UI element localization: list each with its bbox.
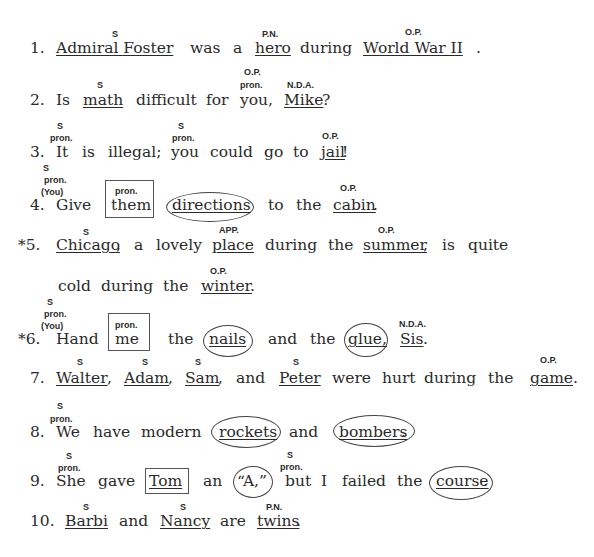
label-appositive: APP.: [219, 225, 239, 235]
word: nails: [209, 330, 246, 348]
punctuation: ,: [116, 236, 121, 254]
label-noun-direct-address: N.D.A.: [399, 319, 426, 329]
word: to: [293, 143, 309, 161]
word: were: [332, 369, 371, 387]
punctuation: ,: [107, 369, 112, 387]
word: Nancy: [160, 512, 210, 530]
word: Give: [56, 196, 91, 214]
word: go: [264, 143, 283, 161]
word: course: [436, 472, 489, 490]
grammar-worksheet: S P.N. O.P. 1. Admiral Foster was a hero…: [0, 0, 594, 557]
label-pronoun: pron.: [44, 175, 67, 185]
sentence-number: 9.: [30, 472, 45, 490]
label-predicate-nominative: P.N.: [262, 29, 278, 39]
label-pronoun: pron.: [172, 133, 195, 143]
word: She: [56, 472, 86, 490]
label-object-of-preposition: O.P.: [322, 131, 339, 141]
word: the: [310, 330, 335, 348]
word: are: [220, 512, 246, 530]
punctuation: .: [250, 277, 255, 295]
word: hurt: [382, 369, 416, 387]
word: Chicago: [56, 236, 120, 254]
sentence-number: 4.: [30, 196, 45, 214]
punctuation: !: [342, 143, 348, 161]
sentence-number: 3.: [30, 143, 45, 161]
punctuation: .: [296, 512, 301, 530]
word: “A,”: [237, 472, 267, 490]
word: glue,: [348, 330, 387, 348]
punctuation: .: [373, 196, 378, 214]
word: winter: [201, 277, 252, 295]
word: the: [488, 369, 513, 387]
word: summer: [363, 236, 427, 254]
word: Is: [56, 91, 70, 109]
label-pronoun: pron.: [280, 462, 303, 472]
word: during: [101, 277, 153, 295]
label-subject: S: [287, 450, 293, 460]
word: place: [212, 236, 254, 254]
word: Barbi: [65, 512, 108, 530]
word: Sis: [400, 330, 424, 348]
punctuation: .: [573, 369, 578, 387]
word: Tom: [149, 472, 182, 490]
word: We: [56, 423, 80, 441]
label-object-of-preposition: O.P.: [378, 225, 395, 235]
word: and: [268, 330, 297, 348]
label-subject: S: [195, 357, 201, 367]
label-object-of-preposition: O.P.: [405, 27, 422, 37]
word: an: [203, 472, 222, 490]
label-subject: S: [77, 357, 83, 367]
label-subject: S: [180, 502, 186, 512]
word: failed: [342, 472, 386, 490]
word: me: [115, 330, 139, 348]
word: gave: [98, 472, 135, 490]
punctuation: .: [476, 39, 481, 57]
word: cabin: [333, 196, 376, 214]
word: a: [233, 39, 242, 57]
word: the: [163, 277, 188, 295]
sentence-number: 10.: [30, 512, 55, 530]
label-predicate-nominative: P.N.: [266, 502, 282, 512]
label-object-of-preposition: O.P.: [340, 183, 357, 193]
word: lovely: [156, 236, 202, 254]
label-subject: S: [97, 80, 103, 90]
label-subject: S: [57, 401, 63, 411]
word: World War II: [363, 39, 463, 57]
word: twins: [257, 512, 299, 530]
label-subject: S: [43, 163, 49, 173]
punctuation: ?: [322, 91, 330, 109]
punctuation: ,: [218, 369, 223, 387]
word: math: [83, 91, 123, 109]
word: game: [530, 369, 573, 387]
word: quite: [468, 236, 508, 254]
label-subject: S: [112, 29, 118, 39]
word: I: [321, 472, 327, 490]
sentence-number: 8.: [30, 423, 45, 441]
word: bombers: [339, 423, 407, 441]
label-subject: S: [66, 451, 72, 461]
punctuation: ,: [168, 369, 173, 387]
word: the: [328, 236, 353, 254]
label-pronoun: pron.: [44, 309, 67, 319]
label-object-of-preposition: O.P.: [540, 355, 557, 365]
punctuation: .: [401, 423, 406, 441]
word: illegal;: [108, 143, 161, 161]
word: during: [300, 39, 352, 57]
sentence-number: 1.: [30, 39, 45, 57]
word: is: [82, 143, 95, 161]
label-subject: S: [57, 121, 63, 131]
word: modern: [141, 423, 202, 441]
punctuation: .: [423, 330, 428, 348]
word: Mike: [284, 91, 323, 109]
word: the: [397, 472, 422, 490]
word: is: [442, 236, 455, 254]
word: and: [236, 369, 265, 387]
label-subject: S: [142, 357, 148, 367]
sentence-number: 7.: [30, 369, 45, 387]
label-subject: S: [47, 297, 53, 307]
word: but: [285, 472, 311, 490]
word: you: [171, 143, 199, 161]
label-subject: S: [178, 121, 184, 131]
word: and: [289, 423, 318, 441]
word: cold: [58, 277, 91, 295]
